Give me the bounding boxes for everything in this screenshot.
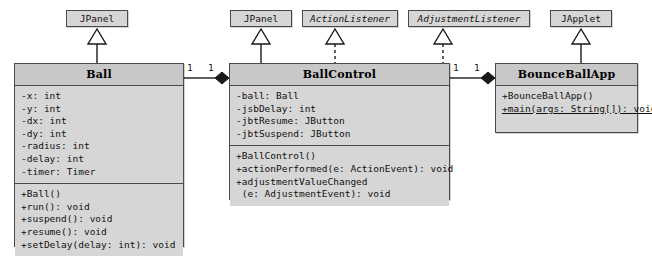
multiplicity-ball-end: 1 bbox=[187, 63, 193, 73]
class-name-ballcontrol: BallControl bbox=[230, 64, 449, 86]
supertype-box-japplet[interactable]: JApplet bbox=[550, 10, 612, 27]
attribute-line: -jbtSuspend: JButton bbox=[236, 128, 443, 141]
attribute-line: -y: int bbox=[21, 103, 177, 116]
attributes-compartment-ballcontrol: -ball: Ball -jsbDelay: int -jbtResume: J… bbox=[230, 86, 449, 146]
method-line: +BallControl() bbox=[236, 150, 443, 163]
method-line: +BounceBallApp() bbox=[502, 90, 631, 103]
class-box-bounceballapp[interactable]: BounceBallApp +BounceBallApp() +main(arg… bbox=[495, 63, 638, 133]
method-line: +run(): void bbox=[21, 201, 177, 214]
method-line: (e: AdjustmentEvent): void bbox=[236, 188, 443, 201]
generalization-jpanel-to-ball bbox=[88, 29, 106, 63]
methods-compartment-ballcontrol: +BallControl() +actionPerformed(e: Actio… bbox=[230, 146, 449, 205]
attribute-line: -dy: int bbox=[21, 128, 177, 141]
realization-actionlistener-to-ballcontrol bbox=[326, 29, 344, 63]
class-name-ball: Ball bbox=[15, 64, 183, 86]
supertype-box-actionlistener[interactable]: ActionListener bbox=[302, 10, 398, 27]
supertype-box-adjustmentlistener[interactable]: AdjustmentListener bbox=[408, 10, 530, 27]
attribute-line: -ball: Ball bbox=[236, 90, 443, 103]
attribute-line: -jsbDelay: int bbox=[236, 103, 443, 116]
method-line-static: +main(args: String[]): void bbox=[502, 103, 631, 116]
method-line: +resume(): void bbox=[21, 226, 177, 239]
composition-ball-to-ballcontrol bbox=[184, 72, 229, 84]
method-line: +setDelay(delay: int): void bbox=[21, 239, 177, 252]
class-name-bounceballapp: BounceBallApp bbox=[496, 64, 637, 86]
method-line: +adjustmentValueChanged bbox=[236, 176, 443, 189]
composition-ballcontrol-to-bounceballapp bbox=[450, 72, 495, 84]
attributes-compartment-ball: -x: int -y: int -dx: int -dy: int -radiu… bbox=[15, 86, 183, 184]
attribute-line: -delay: int bbox=[21, 153, 177, 166]
multiplicity-ballcontrol-end-right: 1 bbox=[453, 63, 459, 73]
generalization-jpanel-to-ballcontrol bbox=[252, 29, 270, 63]
uml-class-diagram-canvas: JPanel JPanel ActionListener AdjustmentL… bbox=[0, 0, 652, 263]
supertype-box-jpanel-ballcontrol[interactable]: JPanel bbox=[230, 10, 292, 27]
attribute-line: -dx: int bbox=[21, 115, 177, 128]
multiplicity-bounceballapp-end: 1 bbox=[474, 63, 480, 73]
class-box-ball[interactable]: Ball -x: int -y: int -dx: int -dy: int -… bbox=[14, 63, 184, 247]
method-line: +Ball() bbox=[21, 188, 177, 201]
supertype-box-jpanel-ball[interactable]: JPanel bbox=[66, 10, 128, 27]
realization-adjustmentlistener-to-ballcontrol bbox=[434, 29, 452, 63]
methods-compartment-ball: +Ball() +run(): void +suspend(): void +r… bbox=[15, 184, 183, 256]
attribute-line: -jbtResume: JButton bbox=[236, 115, 443, 128]
method-line: +actionPerformed(e: ActionEvent): void bbox=[236, 163, 443, 176]
attribute-line: -timer: Timer bbox=[21, 166, 177, 179]
attribute-line: -radius: int bbox=[21, 140, 177, 153]
method-line: +suspend(): void bbox=[21, 213, 177, 226]
attribute-line: -x: int bbox=[21, 90, 177, 103]
multiplicity-ballcontrol-end-left: 1 bbox=[208, 63, 214, 73]
generalization-japplet-to-bounceballapp bbox=[572, 29, 590, 63]
class-box-ballcontrol[interactable]: BallControl -ball: Ball -jsbDelay: int -… bbox=[229, 63, 450, 200]
methods-compartment-bounceballapp: +BounceBallApp() +main(args: String[]): … bbox=[496, 86, 637, 120]
